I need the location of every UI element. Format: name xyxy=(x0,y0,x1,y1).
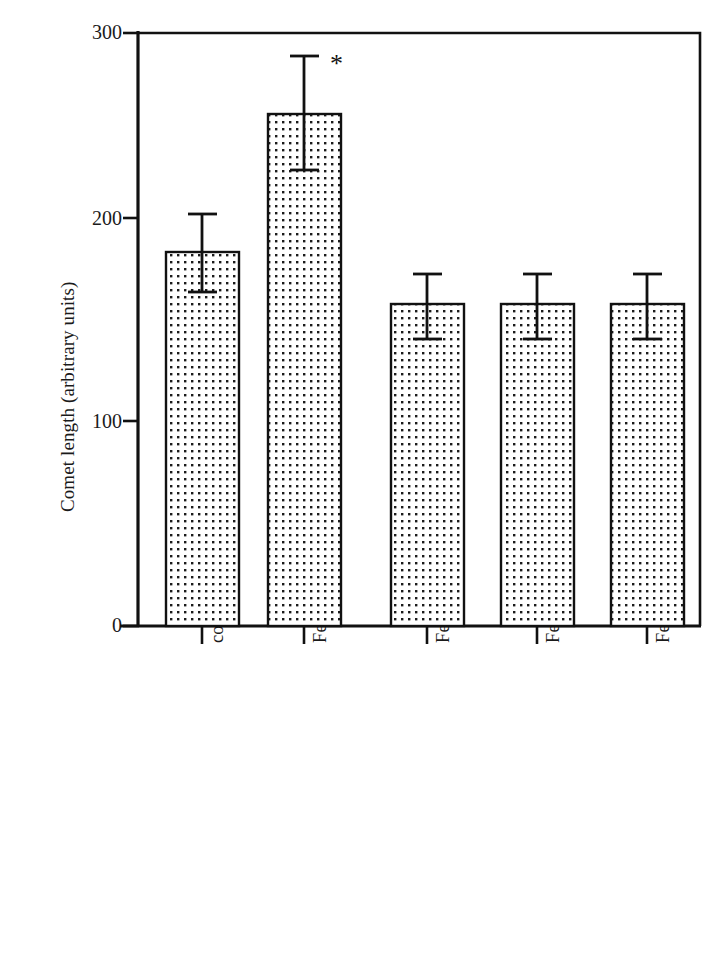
bar-fec12[interactable] xyxy=(268,114,341,626)
bar-fec12-mpsi100[interactable] xyxy=(611,304,684,626)
bar-fec12-mpsi60[interactable] xyxy=(501,304,574,626)
x-axis-ticks xyxy=(202,626,647,644)
bars-group xyxy=(166,114,684,626)
plot-area: * xyxy=(0,0,716,958)
bar-fec12-mpsi20[interactable] xyxy=(391,304,464,626)
bar-control[interactable] xyxy=(166,252,239,626)
comet-assay-bar-chart: Comet length (arbitrary units) 300 200 1… xyxy=(0,0,716,958)
error-bars-group xyxy=(188,56,662,339)
significance-asterisk: * xyxy=(330,49,343,78)
